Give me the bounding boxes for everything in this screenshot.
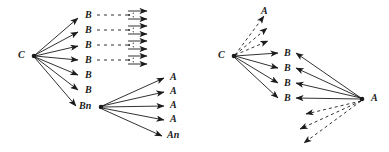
- label-branch-b-3: B: [85, 40, 92, 50]
- label-node-a-right: A: [371, 93, 378, 103]
- label-leaf-a-3: A: [170, 100, 177, 110]
- left-dashed-row-4: [97, 56, 147, 64]
- left-fan-edges: [35, 18, 78, 106]
- label-node-c-left: C: [18, 50, 25, 60]
- right-c-fan-edges: [235, 53, 278, 98]
- right-dashed-in-edges: [300, 101, 361, 143]
- label-branch-b-6: B: [85, 85, 92, 95]
- label-node-bn-left: Bn: [79, 101, 91, 111]
- left-dashed-row-3: [97, 41, 147, 49]
- label-branch-b-5: B: [85, 70, 92, 80]
- label-branch-b-4: B: [85, 55, 92, 65]
- right-a-in-edges: [296, 53, 361, 99]
- label-leaf-an: An: [167, 130, 179, 140]
- label-branch-b-2: B: [85, 25, 92, 35]
- left-dashed-row-2: [97, 26, 147, 34]
- diagram-svg: [0, 0, 389, 152]
- label-leaf-a-1: A: [170, 72, 177, 82]
- right-panel-group: [232, 16, 365, 143]
- label-right-b-4: B: [284, 93, 291, 103]
- label-leaf-a-2: A: [170, 86, 177, 96]
- label-right-b-1: B: [284, 48, 291, 58]
- label-right-b-2: B: [284, 63, 291, 73]
- label-node-c-right: C: [218, 50, 225, 60]
- figure-canvas: C B B B B B B Bn A A A A An C A B B B B …: [0, 0, 389, 152]
- label-branch-b-1: B: [85, 10, 92, 20]
- left-bn-fan-edges: [102, 78, 164, 136]
- left-dashed-row-1: [97, 11, 147, 19]
- label-top-a-right: A: [261, 6, 268, 16]
- label-right-b-3: B: [284, 78, 291, 88]
- left-panel-group: [32, 11, 164, 136]
- right-dashed-out-edges: [235, 16, 268, 55]
- label-leaf-a-4: A: [170, 114, 177, 124]
